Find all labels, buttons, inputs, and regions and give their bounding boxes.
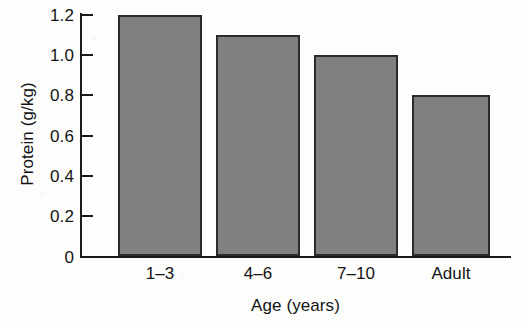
x-axis-line: [80, 256, 511, 258]
x-tick-label-adult: Adult: [412, 264, 490, 284]
bar-4-6: [216, 35, 300, 256]
plot-area: 1–3 4–6 7–10 Adult Age (years): [0, 0, 522, 323]
y-axis-tick: [82, 215, 93, 217]
bar-7-10: [314, 55, 398, 256]
x-tick-label-1-3: 1–3: [118, 264, 202, 284]
y-axis-tick: [82, 54, 93, 56]
x-tick-label-7-10: 7–10: [314, 264, 398, 284]
bar-chart-figure: Protein (g/kg) 1.2 1.0 0.8 0.6 0.4 0.2 0…: [0, 0, 522, 323]
y-axis-tick: [82, 175, 93, 177]
bar-adult: [412, 95, 490, 256]
y-axis-tick: [82, 135, 93, 137]
x-axis-title: Age (years): [80, 296, 511, 316]
y-axis-tick: [82, 14, 93, 16]
x-tick-label-4-6: 4–6: [216, 264, 300, 284]
bar-1-3: [118, 15, 202, 256]
y-axis-tick: [82, 94, 93, 96]
